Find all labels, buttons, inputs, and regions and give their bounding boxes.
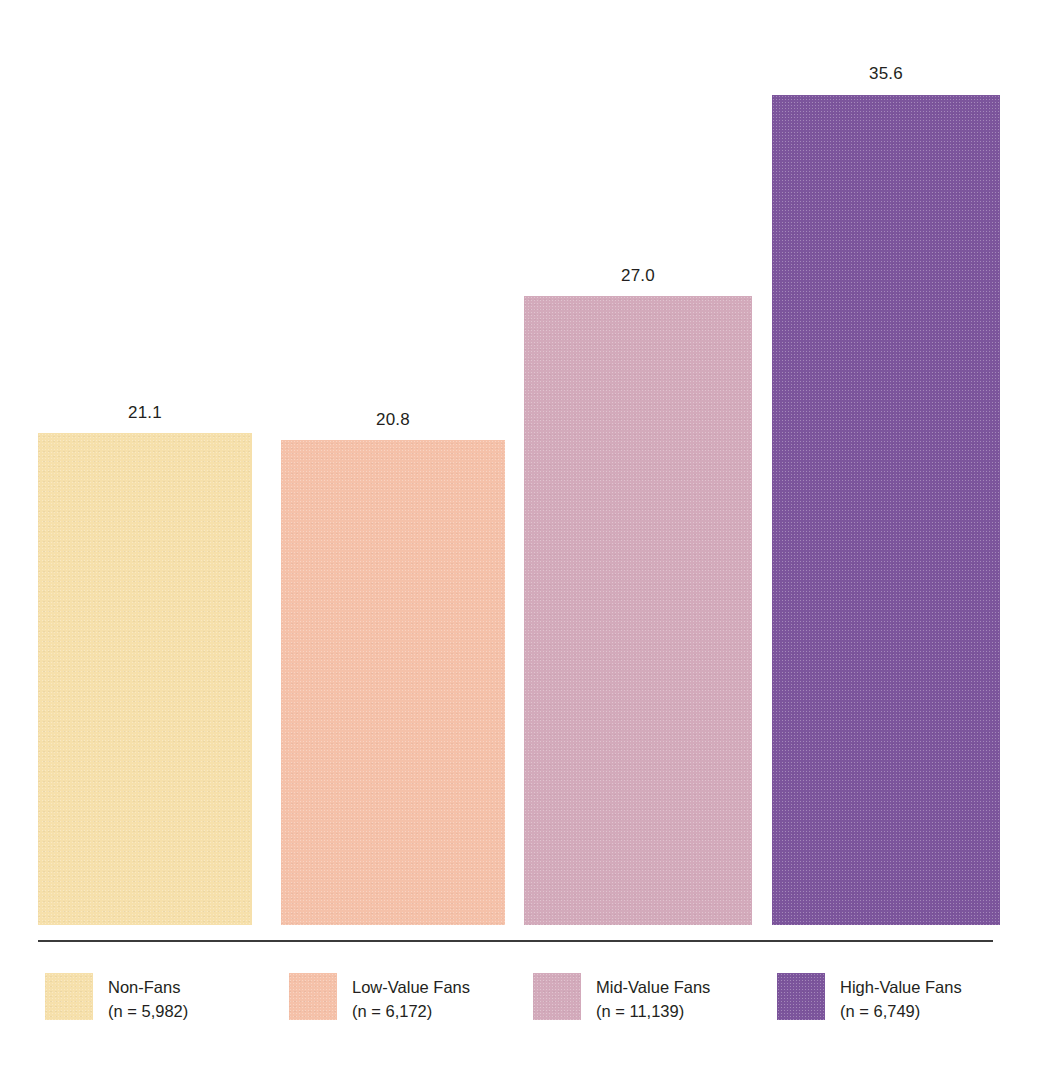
bar-group-non-fans: 21.1 — [38, 433, 252, 925]
bar-group-high-value-fans: 35.6 — [772, 95, 1000, 925]
bar-value-label-4: 35.6 — [772, 64, 1000, 84]
bar-group-low-value-fans: 20.8 — [281, 440, 505, 925]
legend-item-non-fans[interactable]: Non-Fans (n = 5,982) — [45, 973, 188, 1023]
bar-non-fans[interactable] — [38, 433, 252, 925]
chart-legend: Non-Fans (n = 5,982) Low-Value Fans (n =… — [0, 973, 1043, 1053]
legend-swatch-low-value-fans — [289, 973, 337, 1020]
legend-item-mid-value-fans[interactable]: Mid-Value Fans (n = 11,139) — [533, 973, 710, 1023]
legend-count-non-fans: (n = 5,982) — [108, 999, 188, 1023]
legend-swatch-mid-value-fans — [533, 973, 581, 1020]
bar-value-label-3: 27.0 — [524, 266, 752, 286]
bar-high-value-fans[interactable] — [772, 95, 1000, 925]
legend-item-low-value-fans[interactable]: Low-Value Fans (n = 6,172) — [289, 973, 470, 1023]
legend-count-low-value-fans: (n = 6,172) — [352, 999, 470, 1023]
axis-baseline — [38, 940, 993, 942]
legend-text-low-value-fans: Low-Value Fans (n = 6,172) — [352, 973, 470, 1023]
legend-swatch-high-value-fans — [777, 973, 825, 1020]
legend-text-high-value-fans: High-Value Fans (n = 6,749) — [840, 973, 962, 1023]
bar-chart: 21.1 20.8 27.0 35.6 Non-Fans (n = 5,982) — [0, 0, 1043, 1083]
legend-text-non-fans: Non-Fans (n = 5,982) — [108, 973, 188, 1023]
bar-low-value-fans[interactable] — [281, 440, 505, 925]
legend-item-high-value-fans[interactable]: High-Value Fans (n = 6,749) — [777, 973, 962, 1023]
bar-value-label-1: 21.1 — [38, 403, 252, 423]
legend-label-low-value-fans: Low-Value Fans — [352, 975, 470, 999]
legend-label-high-value-fans: High-Value Fans — [840, 975, 962, 999]
legend-text-mid-value-fans: Mid-Value Fans (n = 11,139) — [596, 973, 710, 1023]
legend-count-high-value-fans: (n = 6,749) — [840, 999, 962, 1023]
legend-count-mid-value-fans: (n = 11,139) — [596, 999, 710, 1023]
legend-label-mid-value-fans: Mid-Value Fans — [596, 975, 710, 999]
legend-swatch-non-fans — [45, 973, 93, 1020]
bar-mid-value-fans[interactable] — [524, 296, 752, 925]
bar-group-mid-value-fans: 27.0 — [524, 296, 752, 925]
legend-label-non-fans: Non-Fans — [108, 975, 188, 999]
bar-value-label-2: 20.8 — [281, 410, 505, 430]
plot-area: 21.1 20.8 27.0 35.6 — [0, 0, 1043, 925]
